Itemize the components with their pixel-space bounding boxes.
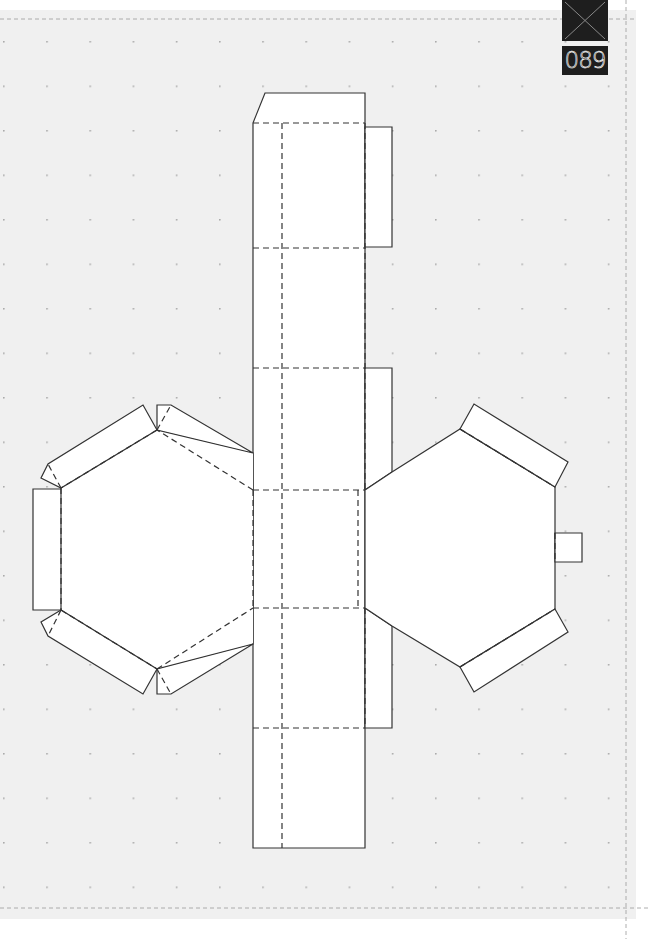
badge-x-box <box>562 0 608 41</box>
center-strip <box>253 93 365 848</box>
flap-left <box>33 489 61 610</box>
glue-tab-lower <box>365 608 392 728</box>
glue-tab-upper <box>365 368 392 490</box>
page-number-badge: 089 <box>562 46 608 75</box>
right-tab <box>555 533 582 562</box>
papercraft-sheet <box>0 0 648 939</box>
glue-tab-top <box>365 127 392 247</box>
x-mark-icon <box>562 0 608 41</box>
